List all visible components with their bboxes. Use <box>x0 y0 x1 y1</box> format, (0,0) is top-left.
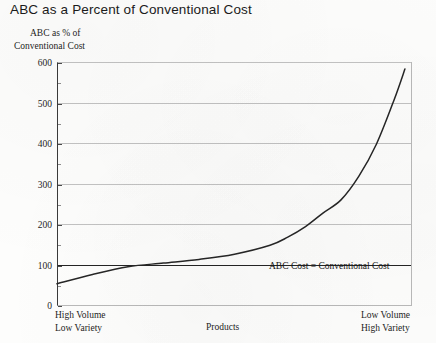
y-axis-title-line2: Conventional Cost <box>14 40 85 53</box>
chart-page: ABC as a Percent of Conventional Cost AB… <box>0 0 436 343</box>
y-tick-label-100: 100 <box>0 261 52 271</box>
x-axis-label-left-line1: High Volume <box>55 310 106 320</box>
y-tick-label-600: 600 <box>0 58 52 68</box>
gridline-400 <box>58 143 411 144</box>
gridline-600 <box>58 62 411 63</box>
x-axis-title: Products <box>206 321 239 334</box>
y-tick-label-500: 500 <box>0 99 52 109</box>
y-tick-label-400: 400 <box>0 139 52 149</box>
x-axis-label-right-line2: High Variety <box>361 323 410 333</box>
x-axis-label-right-line1: Low Volume <box>361 310 410 320</box>
y-tick-label-0: 0 <box>0 301 52 311</box>
gridline-500 <box>58 103 411 104</box>
y-axis-title: ABC as % of Conventional Cost <box>14 27 85 52</box>
gridline-200 <box>58 224 411 225</box>
y-axis-title-line1: ABC as % of <box>14 27 85 40</box>
y-tick-label-200: 200 <box>0 220 52 230</box>
y-tick-mark-0 <box>58 306 62 307</box>
x-axis-label-right: Low Volume High Variety <box>361 309 410 334</box>
y-tick-label-300: 300 <box>0 180 52 190</box>
page-title: ABC as a Percent of Conventional Cost <box>10 2 252 17</box>
gridline-300 <box>58 184 411 185</box>
x-axis-label-left-line2: Low Variety <box>55 323 102 333</box>
reference-line-annotation: ABC Cost = Conventional Cost <box>269 261 389 271</box>
x-axis-label-left: High Volume Low Variety <box>55 309 106 334</box>
